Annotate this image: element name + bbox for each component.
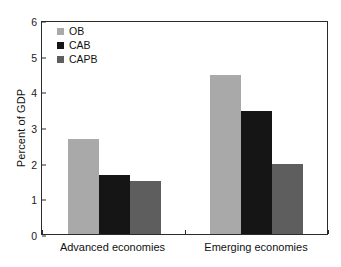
- bar-advanced-cab: [99, 175, 130, 234]
- bar-advanced-ob: [68, 139, 99, 234]
- bar-chart-figure: Percent of GDP 6 5 4 3 2 1 0: [0, 0, 341, 267]
- plot-area: 6 5 4 3 2 1 0 OB: [41, 21, 328, 235]
- y-tick-mark-6: [42, 22, 46, 23]
- legend-swatch-capb: [57, 56, 64, 63]
- x-tick-mark-middle: [185, 230, 186, 234]
- bar-emerging-ob: [210, 75, 241, 234]
- y-tick-mark-2: [42, 164, 46, 165]
- y-tick-mark-3: [42, 129, 46, 130]
- bar-emerging-capb: [272, 164, 303, 234]
- legend-label-capb: CAPB: [69, 54, 98, 65]
- x-tick-mark-right: [328, 230, 329, 234]
- y-tick-label-4: 4: [31, 88, 42, 99]
- x-tick-mark-left: [42, 230, 43, 234]
- y-tick-mark-0: [42, 236, 46, 237]
- y-axis-title: Percent of GDP: [10, 21, 32, 235]
- legend-item-capb: CAPB: [57, 53, 98, 66]
- y-tick-label-6: 6: [31, 17, 42, 28]
- legend-item-ob: OB: [57, 25, 98, 38]
- legend: OB CAB CAPB: [57, 25, 98, 67]
- legend-swatch-cab: [57, 42, 64, 49]
- legend-swatch-ob: [57, 28, 64, 35]
- y-tick-mark-5: [42, 57, 46, 58]
- y-tick-label-0: 0: [31, 231, 42, 242]
- legend-label-ob: OB: [69, 26, 84, 37]
- y-tick-label-2: 2: [31, 159, 42, 170]
- bar-emerging-cab: [241, 111, 272, 234]
- bar-advanced-capb: [130, 181, 161, 234]
- y-tick-mark-1: [42, 200, 46, 201]
- y-tick-mark-4: [42, 93, 46, 94]
- y-tick-label-5: 5: [31, 52, 42, 63]
- legend-label-cab: CAB: [69, 40, 91, 51]
- legend-item-cab: CAB: [57, 39, 98, 52]
- y-tick-label-1: 1: [31, 195, 42, 206]
- y-tick-label-3: 3: [31, 124, 42, 135]
- x-group-label-advanced: Advanced economies: [41, 241, 184, 253]
- x-group-label-emerging: Emerging economies: [184, 241, 328, 253]
